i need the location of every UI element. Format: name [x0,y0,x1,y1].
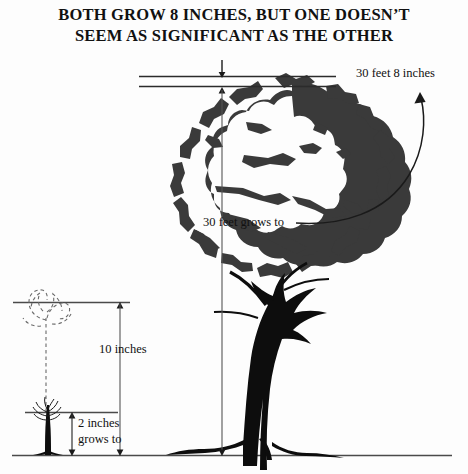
tree-growth-gap-arrow [219,60,226,78]
callout-arrowhead [414,92,425,103]
sapling-base-label: 2 inches grows to [78,415,142,447]
tree-trunk [166,263,344,470]
tree-top-label: 30 feet 8 inches [356,66,435,81]
seedling-original-height-arrow [69,412,76,456]
sapling-base-label-line-2: grows to [78,431,142,447]
tree-canopy [170,73,411,278]
grown-seedling-dashed-outline [23,290,71,412]
sapling-base-label-line-1: 2 inches [78,415,142,431]
tree-grows-label: 30 feet grows to [203,215,284,230]
sapling-total-label: 10 inches [99,342,147,357]
large-oak-tree [166,73,411,470]
small-seedling [33,397,63,455]
illustration-page: BOTH GROW 8 INCHES, BUT ONE DOESN’T SEEM… [0,0,468,474]
